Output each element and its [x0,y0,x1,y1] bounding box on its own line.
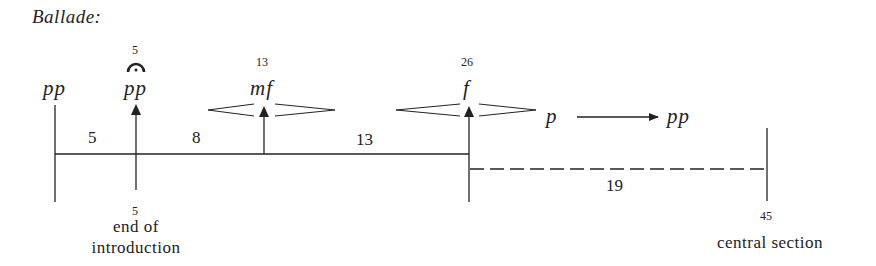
mf-bar-above: 13 [256,55,268,70]
central-label: central section [700,232,840,253]
segment-1: 5 [88,128,97,148]
dashed-segment: 19 [606,176,623,196]
segment-3: 13 [356,130,373,150]
segment-2: 8 [192,128,201,148]
decay-to: pp [667,104,690,129]
fermata-icon [135,69,138,72]
intro-bar-above: 5 [132,43,138,58]
intro-label: end of introduction [86,216,186,258]
f-bar-above: 26 [461,55,473,70]
decay-from: p [546,104,558,129]
central-bar: 45 [760,209,772,224]
f-dynamic: f [463,76,470,101]
start-dynamic: pp [43,76,66,101]
intro-dynamic: pp [124,76,147,101]
mf-dynamic: mf [250,76,273,101]
